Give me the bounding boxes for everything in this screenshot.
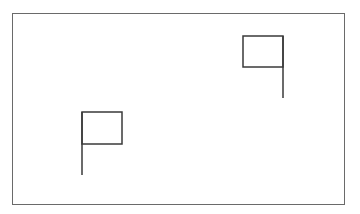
- flag-cloth: [243, 36, 283, 67]
- flag-cloth: [82, 112, 122, 144]
- flags-scene: [0, 0, 360, 214]
- flag-lower-left-icon: [82, 112, 122, 175]
- flag-upper-right-icon: [243, 36, 283, 98]
